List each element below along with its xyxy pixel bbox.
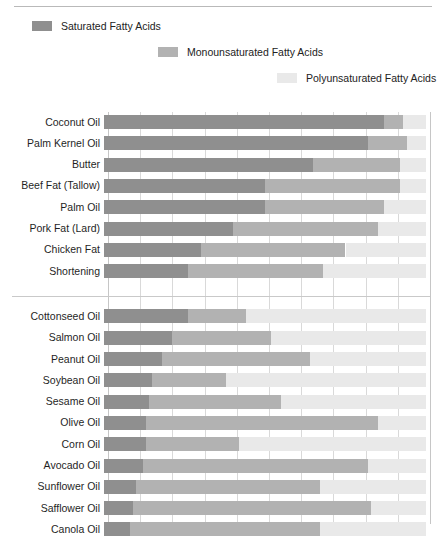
bar-segment-1[interactable]	[188, 264, 323, 278]
legend-swatch-monounsaturated	[158, 47, 178, 57]
bar-segment-0[interactable]	[104, 331, 172, 345]
bar-segment-2[interactable]	[271, 331, 426, 345]
bar-row-label: Pork Fat (Lard)	[0, 222, 104, 235]
legend-swatch-polyunsaturated	[277, 73, 297, 83]
bar-row: Peanut Oil	[0, 352, 446, 366]
bar-segment-0[interactable]	[104, 222, 233, 236]
legend-label-monounsaturated: Monounsaturated Fatty Acids	[187, 46, 323, 58]
bar-segment-0[interactable]	[104, 480, 136, 494]
bar-segment-1[interactable]	[130, 522, 320, 536]
bar-row-label: Canola Oil	[0, 523, 104, 536]
bar-segment-0[interactable]	[104, 179, 265, 193]
bar-segment-2[interactable]	[281, 395, 426, 409]
bar-row-label: Peanut Oil	[0, 353, 104, 366]
bar-row-label: Palm Oil	[0, 201, 104, 214]
bar-row: Soybean Oil	[0, 373, 446, 387]
legend-item-polyunsaturated[interactable]: Polyunsaturated Fatty Acids	[277, 72, 436, 84]
legend-item-monounsaturated[interactable]: Monounsaturated Fatty Acids	[158, 46, 323, 58]
bar-segment-1[interactable]	[384, 115, 403, 129]
bar-segment-2[interactable]	[323, 264, 426, 278]
chart-legend: Saturated Fatty Acids Monounsaturated Fa…	[0, 14, 446, 106]
bar-segment-2[interactable]	[368, 459, 426, 473]
bar-segment-2[interactable]	[400, 158, 426, 172]
bar-segment-2[interactable]	[239, 437, 426, 451]
bar-row: Corn Oil	[0, 437, 446, 451]
bar-segment-0[interactable]	[104, 200, 265, 214]
bar-segment-1[interactable]	[265, 179, 400, 193]
bar-segment-1[interactable]	[136, 480, 320, 494]
bar-row: Sesame Oil	[0, 395, 446, 409]
bar-segment-1[interactable]	[368, 136, 407, 150]
bar-segment-2[interactable]	[246, 309, 426, 323]
legend-swatch-saturated	[32, 21, 52, 31]
bar-segment-2[interactable]	[226, 373, 426, 387]
bar-row: Shortening	[0, 264, 446, 278]
bar-track	[104, 309, 426, 323]
bar-segment-0[interactable]	[104, 264, 188, 278]
bar-segment-2[interactable]	[407, 136, 426, 150]
bar-track	[104, 222, 426, 236]
bar-track	[104, 264, 426, 278]
bar-track	[104, 480, 426, 494]
bar-segment-2[interactable]	[320, 480, 426, 494]
bar-segment-2[interactable]	[346, 243, 427, 257]
bar-segment-1[interactable]	[265, 200, 384, 214]
bar-segment-0[interactable]	[104, 158, 313, 172]
bar-segment-0[interactable]	[104, 136, 368, 150]
bar-segment-0[interactable]	[104, 309, 188, 323]
bar-segment-1[interactable]	[172, 331, 272, 345]
bar-segment-0[interactable]	[104, 352, 162, 366]
bar-rows: Coconut OilPalm Kernel OilButterBeef Fat…	[0, 112, 446, 524]
bar-track	[104, 459, 426, 473]
bar-row-label: Soybean Oil	[0, 374, 104, 387]
bar-segment-2[interactable]	[384, 200, 426, 214]
bar-segment-1[interactable]	[146, 437, 239, 451]
bar-track	[104, 437, 426, 451]
bar-segment-1[interactable]	[188, 309, 246, 323]
bar-track	[104, 115, 426, 129]
bar-segment-0[interactable]	[104, 459, 143, 473]
legend-item-saturated[interactable]: Saturated Fatty Acids	[32, 20, 161, 32]
bar-segment-2[interactable]	[400, 179, 426, 193]
bar-segment-2[interactable]	[378, 222, 426, 236]
bar-segment-2[interactable]	[310, 352, 426, 366]
bar-row: Olive Oil	[0, 416, 446, 430]
bar-segment-1[interactable]	[146, 416, 378, 430]
bar-row: Avocado Oil	[0, 459, 446, 473]
bar-track	[104, 416, 426, 430]
bar-segment-2[interactable]	[320, 522, 426, 536]
bar-segment-0[interactable]	[104, 373, 152, 387]
bar-segment-1[interactable]	[133, 501, 371, 515]
bar-segment-1[interactable]	[152, 373, 226, 387]
bar-row-label: Chicken Fat	[0, 243, 104, 256]
bar-segment-1[interactable]	[233, 222, 378, 236]
bar-segment-2[interactable]	[371, 501, 426, 515]
bar-segment-0[interactable]	[104, 501, 133, 515]
bar-row-label: Avocado Oil	[0, 459, 104, 472]
bar-segment-1[interactable]	[313, 158, 400, 172]
bar-segment-1[interactable]	[149, 395, 281, 409]
bar-segment-1[interactable]	[201, 243, 346, 257]
bar-row: Cottonseed Oil	[0, 309, 446, 323]
bar-track	[104, 200, 426, 214]
bar-segment-0[interactable]	[104, 437, 146, 451]
bar-row: Safflower Oil	[0, 501, 446, 515]
top-divider-rule	[14, 6, 432, 7]
bar-track	[104, 395, 426, 409]
bar-row: Palm Kernel Oil	[0, 136, 446, 150]
bar-segment-0[interactable]	[104, 395, 149, 409]
bar-row: Palm Oil	[0, 200, 446, 214]
bar-track	[104, 522, 426, 536]
bar-row: Chicken Fat	[0, 243, 446, 257]
bar-row-label: Sesame Oil	[0, 395, 104, 408]
bar-segment-2[interactable]	[378, 416, 426, 430]
bar-segment-1[interactable]	[143, 459, 368, 473]
bar-segment-0[interactable]	[104, 416, 146, 430]
bar-segment-2[interactable]	[403, 115, 426, 129]
bar-row: Butter	[0, 158, 446, 172]
bar-segment-0[interactable]	[104, 522, 130, 536]
bar-segment-0[interactable]	[104, 115, 384, 129]
bar-row-label: Salmon Oil	[0, 331, 104, 344]
bar-segment-1[interactable]	[162, 352, 310, 366]
bar-segment-0[interactable]	[104, 243, 201, 257]
